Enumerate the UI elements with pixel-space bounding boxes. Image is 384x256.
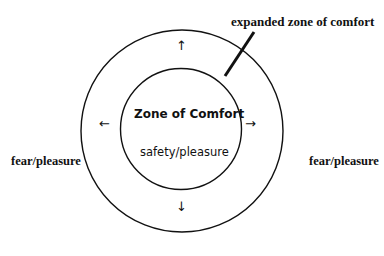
arrow-down-icon: ↓ (176, 200, 187, 213)
left-fear-pleasure-label: fear/pleasure (11, 154, 81, 169)
arrow-left-icon: ← (99, 117, 110, 130)
right-fear-pleasure-label: fear/pleasure (309, 154, 379, 169)
zone-diagram (0, 0, 384, 256)
expanded-zone-label: expanded zone of comfort (231, 14, 374, 30)
safety-pleasure-label: safety/pleasure (140, 145, 229, 159)
inner-circle (121, 69, 242, 190)
arrow-right-icon: → (245, 117, 256, 130)
arrow-up-icon: ↑ (176, 39, 187, 52)
zone-of-comfort-title: Zone of Comfort (134, 107, 244, 121)
pointer-line (225, 32, 254, 76)
